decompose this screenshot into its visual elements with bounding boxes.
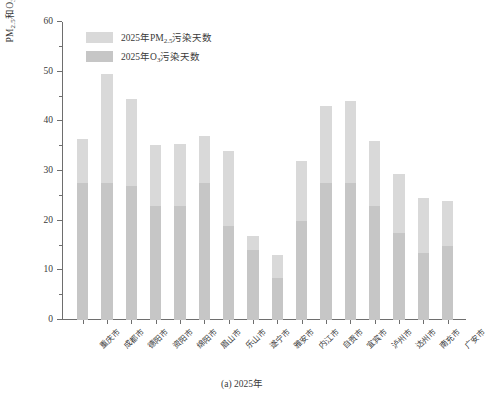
- legend-swatch-o3: [86, 51, 113, 62]
- bar-segment-o3: [101, 183, 113, 320]
- figure-caption: (a) 2025年: [0, 376, 484, 390]
- bar-group: [296, 161, 308, 320]
- y-axis-minor-tick: [59, 245, 62, 246]
- x-axis-tick: [229, 320, 230, 324]
- x-axis-tick-label: 自贡市: [340, 326, 365, 351]
- bar-segment-pm25: [272, 255, 284, 277]
- y-axis-minor-tick: [59, 294, 62, 295]
- x-axis-tick: [156, 320, 157, 324]
- bar-group: [150, 145, 162, 320]
- y-axis-minor-tick: [59, 46, 62, 47]
- bar-group: [199, 136, 211, 320]
- bar-segment-pm25: [223, 151, 235, 226]
- bar-segment-pm25: [199, 136, 211, 183]
- x-axis-tick: [83, 320, 84, 324]
- bar-segment-pm25: [442, 201, 454, 246]
- y-axis-tick-label: 50: [44, 66, 54, 76]
- y-axis-minor-tick: [59, 145, 62, 146]
- x-axis-tick-label: 达州市: [413, 326, 438, 351]
- legend-label-pm25-suffix: 污染天数: [172, 33, 212, 43]
- legend-entry-o3: 2025年O3污染天数: [86, 48, 212, 64]
- x-axis-tick: [204, 320, 205, 324]
- y-axis-tick: 20: [57, 220, 62, 221]
- x-axis-tick: [326, 320, 327, 324]
- y-axis-tick-label: 0: [48, 314, 53, 324]
- bar-segment-o3: [150, 206, 162, 320]
- bar-segment-pm25: [296, 161, 308, 221]
- x-axis-tick-label: 眉山市: [218, 326, 243, 351]
- bar-segment-o3: [126, 186, 138, 320]
- bar-group: [272, 255, 284, 320]
- x-axis-tick: [253, 320, 254, 324]
- y-axis-tick: 10: [57, 269, 62, 270]
- bar-group: [101, 74, 113, 320]
- bar-segment-pm25: [101, 74, 113, 183]
- x-axis-tick: [131, 320, 132, 324]
- x-axis-tick-label: 宜宾市: [364, 326, 389, 351]
- x-axis-tick: [107, 320, 108, 324]
- bar-segment-pm25: [345, 101, 357, 183]
- bar-segment-pm25: [320, 106, 332, 183]
- x-axis-tick: [448, 320, 449, 324]
- x-axis-tick-label: 南充市: [437, 326, 462, 351]
- x-axis-tick: [423, 320, 424, 324]
- x-axis-tick: [399, 320, 400, 324]
- chart-legend: 2025年PM2.5污染天数 2025年O3污染天数: [86, 29, 212, 67]
- bar-group: [393, 173, 405, 320]
- bar-segment-pm25: [126, 99, 138, 186]
- bar-group: [126, 99, 138, 320]
- x-axis-tick-label: 资阳市: [170, 326, 195, 351]
- y-axis-minor-tick: [59, 96, 62, 97]
- bar-segment-o3: [369, 206, 381, 320]
- y-axis-tick-label: 60: [44, 16, 54, 26]
- bar-group: [223, 151, 235, 320]
- bar-group: [77, 139, 89, 320]
- y-axis-line: [62, 22, 63, 320]
- x-axis-tick-label: 泸州市: [389, 326, 414, 351]
- legend-label-pm25-prefix: 2025年PM: [121, 33, 164, 43]
- y-axis-title-sub-o3: 3: [9, 0, 17, 2]
- bar-segment-o3: [442, 246, 454, 321]
- y-axis-title-sub-pm: 2.5: [9, 19, 17, 28]
- bar-group: [369, 141, 381, 320]
- y-axis-tick-label: 20: [44, 215, 54, 225]
- y-axis-title: PM2.5和O3污染天数/d: [2, 0, 17, 86]
- bar-segment-o3: [272, 278, 284, 320]
- bar-group: [174, 144, 186, 320]
- y-axis-tick-label: 40: [44, 115, 54, 125]
- y-axis-tick: 0: [57, 319, 62, 320]
- x-axis-tick-label: 广安市: [462, 326, 487, 351]
- x-axis-line: [62, 319, 466, 320]
- bar-segment-o3: [77, 183, 89, 320]
- x-axis-tick: [180, 320, 181, 324]
- bar-segment-pm25: [369, 141, 381, 206]
- x-axis-tick: [375, 320, 376, 324]
- bar-group: [442, 201, 454, 320]
- x-axis-tick-label: 重庆市: [97, 326, 122, 351]
- y-axis-title-prefix: PM: [5, 28, 15, 42]
- x-axis-tick-label: 德阳市: [145, 326, 170, 351]
- x-axis-tick-label: 雅安市: [291, 326, 316, 351]
- bar-group: [247, 236, 259, 320]
- x-axis-tick-label: 绵阳市: [194, 326, 219, 351]
- bar-segment-pm25: [150, 145, 162, 206]
- bar-segment-pm25: [247, 236, 259, 251]
- bar-segment-pm25: [174, 144, 186, 206]
- x-axis-tick: [302, 320, 303, 324]
- bar-segment-o3: [199, 183, 211, 320]
- bar-segment-pm25: [393, 174, 405, 234]
- bar-segment-o3: [296, 221, 308, 320]
- x-axis-tick-label: 遂宁市: [267, 326, 292, 351]
- legend-label-o3-suffix: 污染天数: [160, 52, 200, 62]
- bar-group: [345, 101, 357, 320]
- bar-segment-o3: [393, 233, 405, 320]
- legend-label-o3: 2025年O3污染天数: [121, 49, 200, 64]
- bar-segment-o3: [320, 183, 332, 320]
- y-axis-title-mid: 和O: [5, 2, 15, 19]
- bar-segment-o3: [418, 253, 430, 320]
- x-axis-tick-label: 内江市: [316, 326, 341, 351]
- legend-swatch-pm25: [86, 32, 113, 43]
- bar-segment-o3: [174, 206, 186, 320]
- legend-entry-pm25: 2025年PM2.5污染天数: [86, 29, 212, 45]
